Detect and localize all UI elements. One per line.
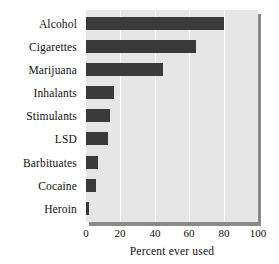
bar-cigarettes: [86, 40, 196, 53]
bar-heroin: [86, 202, 89, 215]
category-label-barbituates: Barbituates: [23, 156, 77, 170]
gridline-80: [224, 10, 225, 222]
bar-lsd: [86, 132, 108, 145]
bar-alcohol: [86, 17, 224, 30]
x-tick-20: 20: [115, 227, 126, 240]
x-axis-title: Percent ever used: [86, 245, 258, 257]
x-axis-tick-labels: 0 20 40 60 80 100: [86, 227, 258, 241]
bar-inhalants: [86, 86, 114, 99]
category-label-alcohol: Alcohol: [39, 17, 77, 31]
x-tick-80: 80: [219, 227, 230, 240]
category-label-marijuana: Marijuana: [28, 63, 77, 77]
x-tick-40: 40: [150, 227, 161, 240]
category-label-heroin: Heroin: [44, 202, 77, 216]
category-label-stimulants: Stimulants: [26, 109, 77, 123]
plot-area: [86, 10, 258, 222]
category-label-lsd: LSD: [55, 132, 77, 146]
x-tick-0: 0: [83, 227, 89, 240]
category-axis-labels: Alcohol Cigarettes Marijuana Inhalants S…: [0, 10, 82, 222]
bar-barbituates: [86, 156, 98, 169]
bar-chart: Alcohol Cigarettes Marijuana Inhalants S…: [0, 0, 279, 264]
x-tick-100: 100: [250, 227, 267, 240]
category-label-cocaine: Cocaine: [38, 179, 77, 193]
bar-marijuana: [86, 63, 163, 76]
category-label-inhalants: Inhalants: [33, 86, 77, 100]
bar-cocaine: [86, 179, 96, 192]
bar-stimulants: [86, 109, 110, 122]
x-tick-60: 60: [184, 227, 195, 240]
category-label-cigarettes: Cigarettes: [29, 40, 77, 54]
